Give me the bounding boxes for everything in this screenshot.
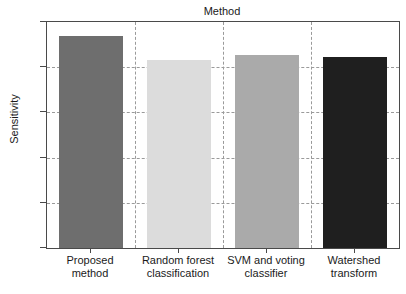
- x-axis-tick-label-line: Proposed: [46, 254, 134, 267]
- chart-title: Method: [46, 5, 398, 18]
- bar[interactable]: [323, 57, 386, 248]
- x-axis-tick-label-line: transform: [310, 267, 398, 280]
- x-axis-tick-label-line: SVM and voting: [222, 254, 310, 267]
- x-axis-tick-mark: [354, 248, 355, 253]
- x-axis-tick-label: Random forestclassification: [134, 254, 222, 280]
- bar[interactable]: [147, 60, 210, 248]
- x-axis-tick-label-line: classifier: [222, 267, 310, 280]
- x-axis-tick-label: Watershedtransform: [310, 254, 398, 280]
- x-axis-tick-label-line: Watershed: [310, 254, 398, 267]
- x-axis-tick-mark: [178, 248, 179, 253]
- x-axis-tick-label-line: Random forest: [134, 254, 222, 267]
- y-axis-label: Sensitivity: [8, 74, 20, 164]
- plot-area: [46, 21, 400, 249]
- x-axis-tick-label: SVM and votingclassifier: [222, 254, 310, 280]
- bar[interactable]: [59, 36, 122, 248]
- bars-container: [47, 22, 399, 248]
- x-axis-tick-label-line: classification: [134, 267, 222, 280]
- x-axis-tick-label: Proposedmethod: [46, 254, 134, 280]
- x-axis-tick-mark: [266, 248, 267, 253]
- x-axis-tick-label-line: method: [46, 267, 134, 280]
- x-axis-tick-mark: [90, 248, 91, 253]
- bar-chart-figure: Method Sensitivity 0.00.20.40.60.81.0 Pr…: [0, 0, 406, 294]
- bar[interactable]: [235, 55, 298, 248]
